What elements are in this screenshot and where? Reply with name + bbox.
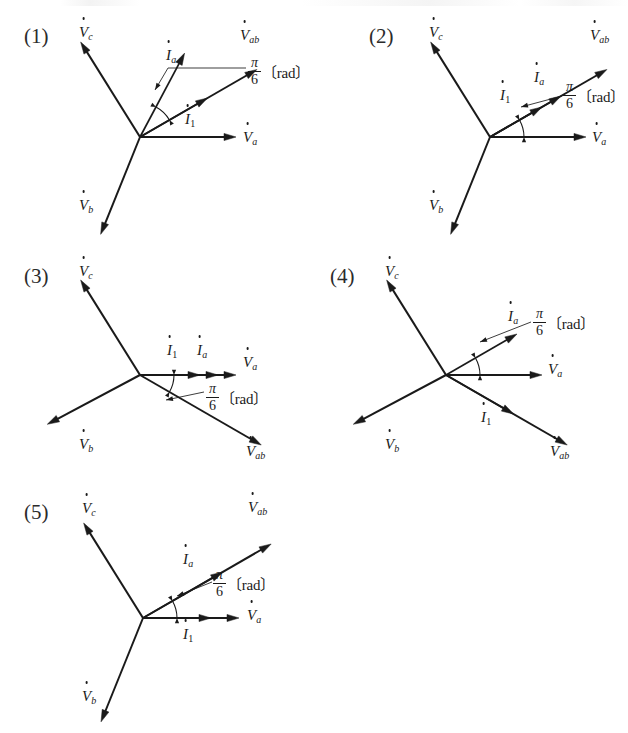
- choice-5-label-V_b-subscript: b: [91, 695, 96, 706]
- choice-5-vector-V_c: [84, 523, 143, 618]
- choice-5-label-V_b-symbol: V: [82, 688, 91, 704]
- choice-5-label-V_c: Vc: [82, 501, 96, 518]
- angle-arc-head-icon: [168, 595, 172, 601]
- choice-5-label-V_ab-symbol: V: [248, 499, 257, 515]
- choice-5-label-V_c-subscript: c: [91, 507, 95, 518]
- phasor-dot-icon: [184, 544, 187, 547]
- choice-5-label-V_b: Vb: [82, 689, 96, 706]
- choice-5-label-V_ab-subscript: ab: [257, 506, 267, 517]
- phasor-dot-icon: [85, 493, 88, 496]
- choice-5-vector-V_a-head-icon: [227, 614, 239, 621]
- leader-arrow-head-icon: [177, 591, 184, 596]
- choice-5-label-V_ab: Vab: [248, 500, 267, 517]
- choice-5-label-I_1: I1: [183, 627, 193, 644]
- phasor-dot-icon: [85, 681, 88, 684]
- fraction-denominator: 6: [214, 584, 225, 599]
- choice-5-vector-canvas: [0, 0, 628, 733]
- choice-5[interactable]: (5)VabIaVaI1VcVbπ6〔rad〕: [0, 0, 628, 733]
- phasor-dot-icon: [251, 492, 254, 495]
- choice-5-vector-V_b: [101, 618, 143, 722]
- phasor-dot-icon: [250, 600, 253, 603]
- choice-5-vector-V_ab-head-icon: [259, 544, 271, 553]
- choice-5-label-I_a-subscript: a: [188, 558, 193, 569]
- choice-5-vector-V_c-head-icon: [84, 523, 93, 535]
- choice-5-label-I_1-symbol: I: [183, 626, 188, 642]
- choice-5-label-V_a-subscript: a: [256, 614, 261, 625]
- choice-5-label-V_a: Va: [247, 608, 261, 625]
- choice-5-rad-annotation: π6〔rad〕: [213, 568, 275, 599]
- rad-unit-label: 〔rad〕: [227, 573, 275, 594]
- choice-5-rad-leader-line: [177, 582, 212, 596]
- choice-5-label-V_a-symbol: V: [247, 607, 256, 623]
- pi-over-six-fraction: π6: [213, 568, 226, 599]
- phasor-dot-icon: [184, 619, 187, 622]
- choice-5-label-V_c-symbol: V: [82, 500, 91, 516]
- choice-5-vector-V_b-head-icon: [101, 709, 109, 721]
- phasor-choices-page: (1)VabIaI1VaVcVbπ6〔rad〕(2)VabIaI1VaVcVbπ…: [0, 0, 628, 733]
- fraction-numerator: π: [214, 568, 225, 583]
- choice-5-label-I_1-subscript: 1: [188, 633, 193, 644]
- choice-5-label-I_a-symbol: I: [183, 551, 188, 567]
- choice-5-vector-I_1-head-icon: [199, 614, 211, 621]
- choice-5-label-I_a: Ia: [183, 552, 193, 569]
